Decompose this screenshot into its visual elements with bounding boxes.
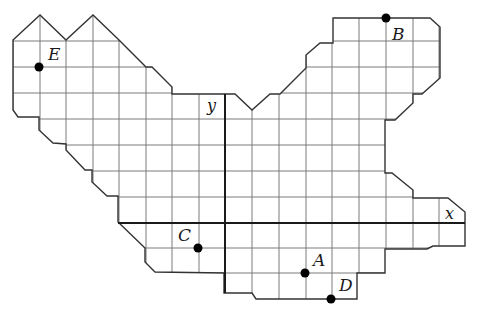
point-b: [382, 14, 391, 23]
point-d: [327, 295, 336, 304]
point-a: [301, 269, 310, 278]
point-d-label: D: [338, 275, 353, 295]
point-b-label: B: [391, 24, 405, 44]
y-axis-label: y: [206, 96, 217, 115]
coordinate-grid-figure: y x E B C A D: [0, 0, 479, 316]
point-e-label: E: [47, 44, 61, 64]
region-outline: [13, 15, 465, 299]
point-c: [194, 244, 203, 253]
point-a-label: A: [311, 250, 325, 270]
point-e: [35, 63, 44, 72]
x-axis-label: x: [445, 204, 454, 223]
grid-lines: [0, 0, 479, 316]
point-c-label: C: [178, 225, 191, 245]
